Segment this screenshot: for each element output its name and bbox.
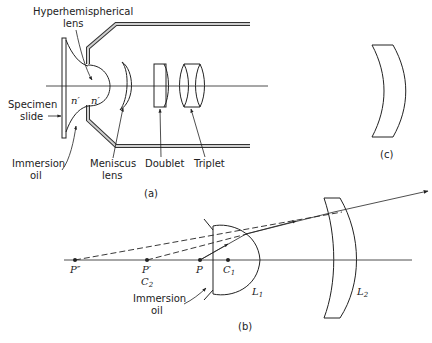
meniscus-label: Meniscus <box>90 158 136 169</box>
real-ray-exit <box>334 191 428 212</box>
panel-b: P″ P′ C2 P C1 L1 L2 Immersion oil (b) <box>64 191 428 332</box>
label-p-prime: P′ <box>141 264 152 275</box>
arrow-immersion-oil-b <box>184 288 206 304</box>
meniscus-lens-c <box>372 45 406 137</box>
point-c1 <box>226 258 230 262</box>
virtual-ray-p-prime <box>147 234 247 260</box>
objective-barrel <box>88 24 250 146</box>
n-prime-label-right: n′ <box>91 95 100 106</box>
immersion-oil-label-b: Immersion <box>133 293 186 304</box>
label-p: P <box>195 264 203 275</box>
immersion-oil-label-b-2: oil <box>151 305 163 316</box>
n-prime-label-left: n′ <box>71 95 80 106</box>
immersion-oil-top <box>66 40 88 66</box>
specimen-label-2: slide <box>20 111 43 122</box>
doublet-label: Doublet <box>145 158 184 169</box>
label-c1: C1 <box>223 264 235 277</box>
triplet-label: Triplet <box>193 158 225 169</box>
point-p-prime <box>145 258 149 262</box>
hyperhemispherical-label-2: lens <box>63 18 83 29</box>
panel-a: n′ n′ Hyperhemispherical lens Specimen s… <box>8 6 268 199</box>
point-p <box>198 258 202 262</box>
hyperhemispherical-label: Hyperhemispherical <box>33 6 133 17</box>
arrow-doublet <box>160 109 161 157</box>
caption-a: (a) <box>144 188 158 199</box>
label-p-double-prime: P″ <box>69 264 81 275</box>
specimen-slide <box>62 38 66 138</box>
doublet-lens <box>154 64 169 107</box>
point-p-double-prime <box>73 258 77 262</box>
caption-b: (b) <box>238 321 252 332</box>
panel-c: (c) <box>372 45 406 160</box>
arrow-triplet <box>191 109 205 157</box>
arrow-meniscus <box>113 108 123 158</box>
optical-diagram: n′ n′ Hyperhemispherical lens Specimen s… <box>0 0 432 343</box>
meniscus-label-2: lens <box>102 170 122 181</box>
label-l1: L1 <box>251 286 263 299</box>
immersion-oil-label-2: oil <box>30 170 42 181</box>
real-ray-arrow-1 <box>200 244 228 260</box>
specimen-label: Specimen <box>8 99 57 110</box>
caption-c: (c) <box>380 149 393 160</box>
lens-l2 <box>324 198 357 318</box>
label-l2: L2 <box>356 286 369 299</box>
triplet-lens <box>180 64 205 107</box>
label-c2: C2 <box>141 276 154 289</box>
immersion-oil-bottom <box>66 106 88 132</box>
virtual-ray-p-double-prime <box>75 212 342 260</box>
immersion-oil-label: Immersion <box>12 158 65 169</box>
